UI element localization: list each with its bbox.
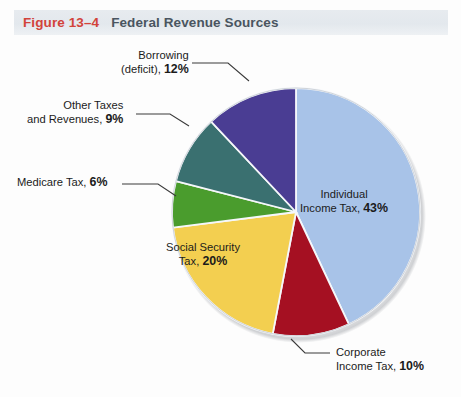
slice-label-borrowing-pct: 12% xyxy=(164,62,189,76)
leader-line-medicare xyxy=(122,184,176,196)
leader-line-borrowing xyxy=(192,63,249,81)
figure-number: Figure 13–4 xyxy=(23,15,99,30)
slice-label-social-security-line2: Tax, xyxy=(179,255,200,267)
slice-label-other-taxes-line1: Other Taxes xyxy=(27,99,123,113)
slice-label-social-security-line1: Social Security xyxy=(166,241,240,255)
slice-label-medicare-line2: Medicare Tax, xyxy=(17,176,86,188)
slice-label-borrowing: Borrowing (deficit), 12% xyxy=(121,49,189,76)
slice-label-individual-income: Individual Income Tax, 43% xyxy=(300,188,388,215)
slice-label-other-taxes-pct: 9% xyxy=(105,112,123,126)
slice-label-corporate-income-line1: Corporate xyxy=(336,346,424,360)
slice-label-corporate-income: Corporate Income Tax, 10% xyxy=(336,346,424,373)
pie-chart-svg xyxy=(0,36,461,397)
slice-label-corporate-income-pct: 10% xyxy=(399,359,424,373)
slice-label-individual-income-line1: Individual xyxy=(300,188,388,202)
figure-title: Federal Revenue Sources xyxy=(111,15,278,30)
pie-chart: Borrowing (deficit), 12% Other Taxes and… xyxy=(0,36,461,397)
slice-label-social-security-pct: 20% xyxy=(202,254,227,268)
slice-label-social-security: Social Security Tax, 20% xyxy=(166,241,240,268)
slice-label-individual-income-line2: Income Tax, xyxy=(300,202,360,214)
figure-header-band: Figure 13–4 Federal Revenue Sources xyxy=(14,10,448,35)
leader-line-other-taxes xyxy=(136,114,189,126)
slice-label-medicare-pct: 6% xyxy=(90,175,108,189)
slice-label-other-taxes-line2: and Revenues, xyxy=(27,113,102,125)
slice-label-other-taxes: Other Taxes and Revenues, 9% xyxy=(27,99,123,126)
slice-label-borrowing-line2: (deficit), xyxy=(121,63,161,75)
slice-label-borrowing-line1: Borrowing xyxy=(121,49,189,63)
slice-label-corporate-income-line2: Income Tax, xyxy=(336,360,396,372)
slice-label-individual-income-pct: 43% xyxy=(363,201,388,215)
slice-label-medicare: Medicare Tax, 6% xyxy=(17,176,107,190)
